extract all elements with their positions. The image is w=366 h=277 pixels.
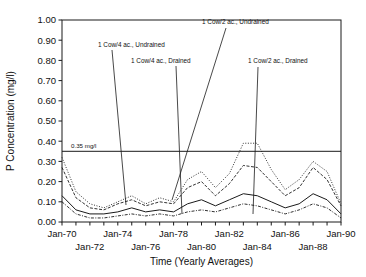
y-axis-title: P Concentration (mg/l) [5,71,16,171]
x-tick-label: Jan-74 [103,228,132,239]
x-tick-label: Jan-88 [299,241,328,252]
plot-border [62,20,341,222]
y-tick-label: 0.60 [38,95,57,106]
threshold-line-group: 0.35 mg/l [62,142,341,151]
x-tick-label: Jan-82 [215,228,244,239]
y-tick-label: 0.30 [38,156,57,167]
series-annotation-label: 1 Cow/2 ac., Undrained [202,18,269,25]
series-annotation-label: 1 Cow/4 ac., Drained [131,57,191,64]
series-line [62,194,341,214]
y-tick-label: 0.50 [38,115,57,126]
annotation-leader-line [112,50,126,205]
y-tick-label: 0.10 [38,196,57,207]
series-annotations: 1 Cow/4 ac., Undrained1 Cow/4 ac., Drain… [98,18,308,214]
chart-container: 0.000.100.200.300.400.500.600.700.800.90… [0,0,366,277]
x-tick-label: Jan-76 [131,241,160,252]
x-axis-title: Time (Yearly Averages) [150,256,253,267]
p-concentration-line-chart: 0.000.100.200.300.400.500.600.700.800.90… [0,0,366,277]
annotation-leader-line [172,28,226,200]
annotation-leader-line [253,67,258,214]
axis-ticks [59,20,342,226]
y-tick-label: 0.80 [38,55,57,66]
threshold-label: 0.35 mg/l [71,142,96,149]
x-tick-label: Jan-90 [326,228,355,239]
y-tick-label: 0.70 [38,75,57,86]
x-tick-label: Jan-84 [243,241,272,252]
y-tick-label: 1.00 [38,14,57,25]
series-annotation-label: 1 Cow/4 ac., Undrained [98,41,165,48]
y-tick-label: 0.40 [38,136,57,147]
series-annotation-label: 1 Cow/2 ac., Drained [248,57,308,64]
y-tick-label: 0.90 [38,35,57,46]
annotation-leader-line [176,66,182,214]
plot-frame [62,20,341,222]
series-line [62,143,341,208]
x-tick-label: Jan-86 [271,228,300,239]
x-tick-label: Jan-78 [159,228,188,239]
x-tick-label: Jan-80 [187,241,216,252]
x-tick-label: Jan-72 [75,241,104,252]
y-axis-tick-labels: 0.000.100.200.300.400.500.600.700.800.90… [38,14,57,227]
x-tick-label: Jan-70 [47,228,76,239]
y-tick-label: 0.00 [38,216,57,227]
y-tick-label: 0.20 [38,176,57,187]
x-axis-tick-labels: Jan-70Jan-74Jan-78Jan-82Jan-86Jan-90Jan-… [47,228,355,252]
data-series-group [62,143,341,218]
